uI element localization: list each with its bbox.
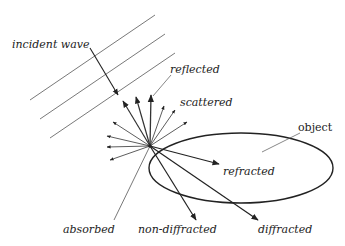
scattered-arrows bbox=[107, 95, 187, 160]
label-diffracted: diffracted bbox=[258, 224, 312, 235]
wave-interaction-diagram: incident wave reflected scattered object… bbox=[0, 0, 345, 246]
label-incident-wave: incident wave bbox=[12, 39, 90, 50]
reflected-leader bbox=[153, 75, 171, 96]
refracted-arrow bbox=[150, 146, 219, 164]
interaction-point bbox=[148, 144, 152, 148]
label-refracted: refracted bbox=[223, 166, 275, 177]
label-non-diffracted: non-diffracted bbox=[138, 224, 217, 235]
incident-arrow bbox=[90, 48, 118, 95]
diffracted-arrow bbox=[150, 146, 258, 220]
label-object: object bbox=[298, 122, 332, 133]
label-scattered: scattered bbox=[180, 97, 233, 108]
diagram-graphics bbox=[0, 0, 345, 246]
label-reflected: reflected bbox=[170, 64, 220, 75]
label-absorbed: absorbed bbox=[63, 224, 115, 235]
wavefront-lines bbox=[30, 15, 175, 138]
